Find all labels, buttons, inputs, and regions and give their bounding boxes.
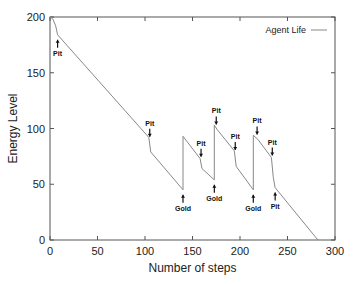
annotation-pit: Pit — [197, 140, 207, 157]
legend-label: Agent Life — [265, 25, 306, 35]
annotation-pit: Pit — [212, 107, 222, 124]
y-tick-label: 150 — [27, 67, 45, 79]
x-tick-label: 0 — [47, 245, 53, 257]
energy-chart: 050100150200250300 050100150200 Number o… — [0, 0, 353, 284]
annotation-label: Pit — [53, 50, 63, 57]
annotation-label: Pit — [212, 107, 222, 114]
annotation-label: Pit — [271, 203, 281, 210]
x-tick-label: 150 — [183, 245, 201, 257]
annotation-gold: Gold — [175, 195, 191, 212]
annotation-label: Gold — [206, 195, 222, 202]
plot-border — [50, 17, 335, 240]
y-tick-label: 50 — [33, 178, 45, 190]
plot-frame — [50, 17, 335, 240]
x-tick-label: 250 — [278, 245, 296, 257]
annotation-pit: Pit — [53, 40, 63, 57]
annotation-label: Pit — [145, 120, 155, 127]
y-tick-label: 200 — [27, 11, 45, 23]
x-axis-label: Number of steps — [148, 261, 236, 275]
annotation-label: Gold — [245, 205, 261, 212]
y-tick-label: 100 — [27, 123, 45, 135]
annotation-label: Gold — [175, 205, 191, 212]
y-tick-label: 0 — [39, 234, 45, 246]
x-tick-label: 50 — [91, 245, 103, 257]
x-tick-label: 300 — [326, 245, 344, 257]
legend: Agent Life — [265, 25, 327, 35]
annotation-label: Pit — [231, 133, 241, 140]
annotation-gold: Gold — [245, 195, 261, 212]
event-annotations: PitPitGoldPitPitGoldPitGoldPitPitPit — [53, 40, 280, 212]
annotation-pit: Pit — [271, 193, 281, 210]
annotation-label: Pit — [253, 117, 263, 124]
y-axis-label: Energy Level — [6, 93, 20, 163]
annotation-pit: Pit — [253, 117, 263, 134]
annotation-pit: Pit — [268, 139, 278, 156]
x-tick-label: 100 — [136, 245, 154, 257]
annotation-label: Pit — [268, 139, 278, 146]
x-tick-label: 200 — [231, 245, 249, 257]
x-axis-ticks: 050100150200250300 — [47, 17, 344, 257]
annotation-gold: Gold — [206, 185, 222, 202]
annotation-label: Pit — [197, 140, 207, 147]
annotation-pit: Pit — [145, 120, 155, 137]
